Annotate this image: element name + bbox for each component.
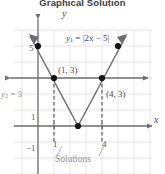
point-1-3 [51, 75, 57, 81]
x-tick-label-4: 4 [102, 140, 107, 149]
y-tick-label-5: 5 [29, 44, 34, 53]
point-0-5 [35, 43, 41, 49]
x-axis-label: x [154, 115, 158, 125]
y-tick-label-1: 1 [31, 113, 36, 122]
point-label-1-3: (1, 3) [58, 66, 78, 75]
solutions-annotation: Solutions [55, 155, 91, 165]
y2-expression: = 3 [8, 89, 22, 99]
x-tick-label-1: 1 [53, 140, 58, 149]
point-4-3 [99, 75, 105, 81]
y1-expression: = |2x − 5| [73, 33, 109, 43]
y2-equation-label: y2 = 3 [1, 90, 22, 99]
graph-canvas [0, 0, 165, 174]
curve-y1-absolute-value [29, 34, 127, 126]
point-5-5 [115, 43, 121, 49]
y-axis-label: y [62, 9, 66, 19]
marked-points [35, 43, 121, 129]
y1-equation-label: y1 = |2x − 5| [66, 34, 109, 43]
point-label-4-3: (4, 3) [106, 90, 126, 99]
graphical-solution-figure: Graphical Solution [0, 0, 165, 174]
point-vertex-2p5-0 [75, 123, 81, 129]
y-tick-label-neg-1: −1 [26, 144, 36, 153]
